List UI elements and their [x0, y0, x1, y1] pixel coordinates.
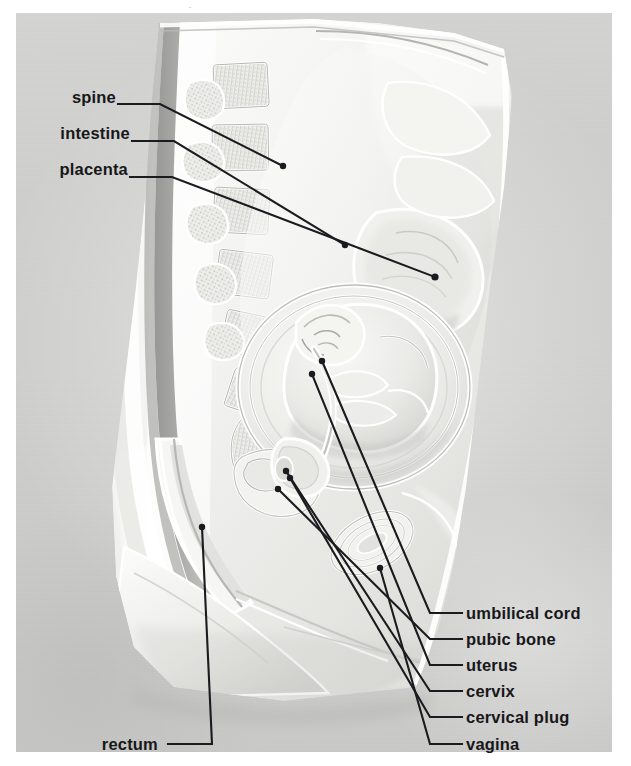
label-cervical-plug: cervical plug [466, 709, 569, 726]
leader-spine [118, 104, 286, 169]
leader-pubic-bone [275, 486, 462, 639]
label-placenta: placenta [0, 161, 128, 178]
label-rectum: rectum [30, 736, 158, 753]
leader-cervix [283, 468, 462, 691]
leader-placenta [130, 177, 439, 281]
figure-page: . [0, 0, 631, 766]
label-intestine: intestine [0, 125, 130, 142]
label-vagina: vagina [466, 736, 519, 753]
leader-umbilical-cord [319, 358, 462, 613]
leader-lines-layer [0, 0, 631, 766]
label-uterus: uterus [466, 657, 518, 674]
label-cervix: cervix [466, 683, 515, 700]
label-pubic-bone: pubic bone [466, 631, 556, 648]
label-umbilical-cord: umbilical cord [466, 605, 581, 622]
leader-rectum [168, 524, 212, 744]
label-spine: spine [18, 89, 116, 106]
leader-uterus [309, 371, 462, 665]
